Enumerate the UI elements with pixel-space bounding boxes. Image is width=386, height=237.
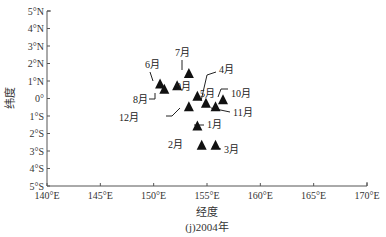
point-label: 8月 [133, 94, 148, 105]
y-tick-label: 1°S [29, 111, 44, 122]
leader-line [166, 108, 180, 116]
y-tick-label: 2°N [28, 58, 44, 69]
triangle-markers [155, 68, 228, 150]
y-tick-label: 5°S [29, 181, 44, 192]
triangle-marker-icon [218, 94, 228, 104]
leader-line [149, 93, 155, 99]
y-tick-label: 5°N [28, 6, 44, 17]
point-label: 5月 [200, 88, 215, 99]
point-label: 1月 [207, 119, 222, 130]
triangle-marker-icon [184, 101, 194, 111]
x-tick-label: 165°E [301, 190, 326, 201]
point-label: 6月 [145, 59, 160, 70]
point-labels: 1月2月3月4月5月6月7月8月9月10月11月12月 [119, 47, 253, 155]
x-tick-label: 155°E [194, 190, 219, 201]
leader-line [150, 72, 153, 81]
scatter-chart: 140°E145°E150°E155°E160°E165°E170°E5°N4°… [0, 0, 386, 237]
x-tick-label: 170°E [354, 190, 379, 201]
triangle-marker-icon [201, 98, 211, 108]
y-tick-label: 3°N [28, 41, 44, 52]
point-label: 12月 [119, 112, 139, 123]
chart-caption: (j)2004年 [185, 220, 228, 234]
point-label: 7月 [175, 47, 190, 58]
y-tick-label: 1°N [28, 76, 44, 87]
y-tick-label: 4°N [28, 23, 44, 34]
triangle-marker-icon [197, 140, 207, 150]
triangle-marker-icon [211, 140, 221, 150]
x-tick-label: 145°E [88, 190, 113, 201]
point-label: 4月 [219, 64, 234, 75]
point-label: 9月 [176, 81, 191, 92]
x-tick-label: 160°E [248, 190, 273, 201]
y-axis-title: 纬度 [3, 87, 16, 109]
point-label: 2月 [168, 139, 183, 150]
triangle-marker-icon [184, 68, 194, 78]
point-label: 3月 [224, 144, 239, 155]
point-label: 11月 [233, 107, 253, 118]
y-tick-label: 2°S [29, 128, 44, 139]
point-label: 10月 [231, 88, 251, 99]
x-axis-title: 经度 [196, 205, 218, 218]
y-tick-label: 4°S [29, 163, 44, 174]
x-tick-label: 150°E [141, 190, 166, 201]
x-tick-label: 140°E [34, 190, 59, 201]
y-tick-label: 3°S [29, 146, 44, 157]
y-tick-label: 0° [35, 93, 44, 104]
